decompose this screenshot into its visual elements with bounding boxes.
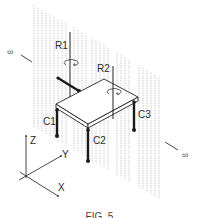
label-c1: C1 xyxy=(43,117,56,127)
platform xyxy=(56,79,138,128)
neg-x-axis xyxy=(20,172,26,176)
infinity-left-arrow xyxy=(21,55,32,62)
coordinate-axes xyxy=(19,136,61,196)
label-axis-x: X xyxy=(58,183,65,193)
infinity-right-arrow xyxy=(165,142,178,150)
label-r2: R2 xyxy=(97,64,110,74)
y-axis xyxy=(26,156,61,176)
label-axis-z: Z xyxy=(30,136,36,146)
label-infinity-right: ∞ xyxy=(182,151,187,160)
neg-y-axis xyxy=(19,176,26,180)
figure: R1 R2 C1 C2 C3 Z Y X ∞ ∞ FIG. 5 xyxy=(0,0,199,218)
diagram-canvas xyxy=(0,0,199,218)
x-axis xyxy=(26,176,58,196)
label-axis-y: Y xyxy=(62,150,69,160)
r1-bar-end xyxy=(56,76,59,79)
label-c2: C2 xyxy=(93,136,106,146)
figure-caption: FIG. 5 xyxy=(0,211,199,218)
label-infinity-left: ∞ xyxy=(7,48,12,57)
label-r1: R1 xyxy=(55,41,68,51)
label-c3: C3 xyxy=(138,110,151,120)
r1-bar xyxy=(58,78,79,91)
